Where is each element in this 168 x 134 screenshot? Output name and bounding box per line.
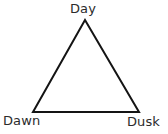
vertex-label-dusk: Dusk	[127, 115, 160, 129]
vertex-label-day: Day	[70, 2, 96, 16]
vertex-label-dawn: Dawn	[3, 114, 40, 128]
triangle-diagram: Day Dawn Dusk	[0, 0, 168, 134]
triangle-outline	[33, 20, 139, 112]
